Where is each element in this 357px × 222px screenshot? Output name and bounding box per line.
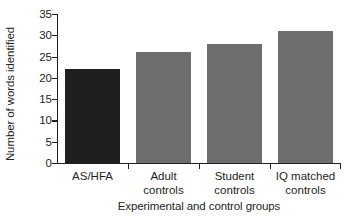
y-axis-tick-label: 15: [22, 92, 52, 106]
y-axis-tick-label: 30: [22, 28, 52, 42]
bar-chart: Number of words identified 0510152025303…: [0, 0, 357, 222]
x-axis-category-labels: AS/HFAAdultcontrolsStudentcontrolsIQ mat…: [57, 170, 341, 200]
bar: [65, 69, 120, 163]
y-axis-tick-mark: [52, 163, 57, 164]
x-axis-category-label-line: Student: [199, 170, 270, 184]
x-axis-category-label: IQ matchedcontrols: [270, 170, 341, 197]
x-axis-category-label-line: IQ matched: [270, 170, 341, 184]
x-axis-category-label-line: AS/HFA: [57, 170, 128, 184]
plot-area: [57, 14, 341, 163]
x-axis-category-label: Studentcontrols: [199, 170, 270, 197]
x-axis-title: Experimental and control groups: [57, 199, 341, 214]
x-axis-end-cap: [340, 164, 341, 169]
bar: [207, 44, 262, 163]
x-axis-category-label: Adultcontrols: [128, 170, 199, 197]
x-axis-category-label-line: Adult: [128, 170, 199, 184]
y-axis-tick-label: 10: [22, 113, 52, 127]
y-axis-title: Number of words identified: [1, 12, 19, 176]
y-axis-tick-label: 0: [22, 156, 52, 170]
x-axis-tick-mark: [270, 164, 271, 169]
y-axis-tick-labels: 05101520253035: [22, 8, 52, 170]
y-axis-tick-label: 5: [22, 135, 52, 149]
x-axis-category-label-line: controls: [128, 184, 199, 198]
x-axis-tick-mark: [128, 164, 129, 169]
y-axis-tick-label: 35: [22, 7, 52, 21]
x-axis-category-label-line: controls: [199, 184, 270, 198]
x-axis-category-label-line: controls: [270, 184, 341, 198]
y-axis-tick-label: 25: [22, 50, 52, 64]
x-axis-category-label: AS/HFA: [57, 170, 128, 184]
bar: [278, 31, 333, 163]
x-axis-tick-mark: [199, 164, 200, 169]
y-axis-tick-label: 20: [22, 71, 52, 85]
bar: [136, 52, 191, 163]
